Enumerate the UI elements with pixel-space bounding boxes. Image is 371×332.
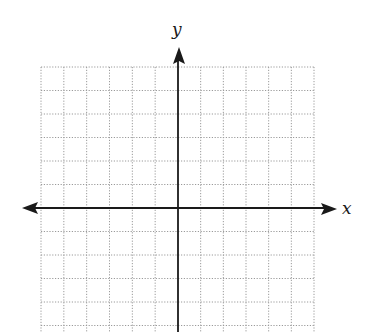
coordinate-plane: x y — [0, 0, 371, 332]
x-axis-label: x — [342, 198, 352, 218]
x-axis-right-arrow-icon — [321, 203, 337, 215]
y-axis-label: y — [171, 19, 182, 39]
x-axis: x — [22, 198, 352, 218]
y-axis-up-arrow-icon — [173, 47, 185, 64]
y-axis: y — [171, 19, 185, 332]
